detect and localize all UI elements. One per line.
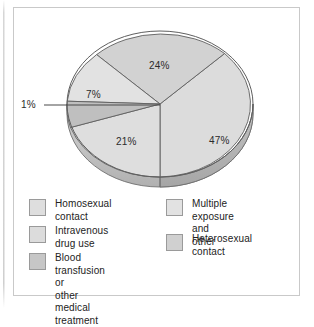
legend-item-blood-transfusion[interactable]: Blood transfusion or other medical treat… (29, 252, 105, 327)
data-label-21: 21% (116, 136, 137, 147)
legend-item-intravenous-drug-use[interactable]: Intravenous drug use (29, 225, 108, 250)
legend-swatch-icon-heterosexual-contact (166, 234, 183, 251)
data-label-1: 1% (21, 99, 36, 110)
pie-chart-svg (14, 8, 301, 198)
pie-top-face (67, 31, 253, 177)
legend-item-heterosexual-contact[interactable]: Heterosexual contact (166, 233, 252, 258)
data-label-47: 47% (209, 135, 230, 146)
legend-swatch-icon-homosexual-contact (29, 199, 46, 216)
legend-swatch-icon-blood-transfusion (29, 253, 46, 270)
page-edge-line-soft (4, 0, 5, 308)
legend-item-homosexual-contact[interactable]: Homosexual contact (29, 198, 112, 223)
legend-label-blood-transfusion: Blood transfusion or other medical treat… (55, 252, 105, 327)
data-label-7: 7% (86, 89, 101, 100)
pie-chart: 47% 24% 21% 7% 1% (14, 8, 301, 198)
chart-legend: Homosexual contact Intravenous drug use … (14, 198, 301, 296)
legend-swatch-icon-multiple-exposure-and-other (166, 199, 183, 216)
legend-swatch-icon-intravenous-drug-use (29, 226, 46, 243)
data-label-24: 24% (149, 60, 170, 71)
legend-label-heterosexual-contact: Heterosexual contact (192, 233, 252, 258)
figure-frame: 47% 24% 21% 7% 1% Homosexual contact Int… (13, 7, 300, 296)
legend-label-homosexual-contact: Homosexual contact (55, 198, 112, 223)
legend-label-intravenous-drug-use: Intravenous drug use (55, 225, 108, 250)
